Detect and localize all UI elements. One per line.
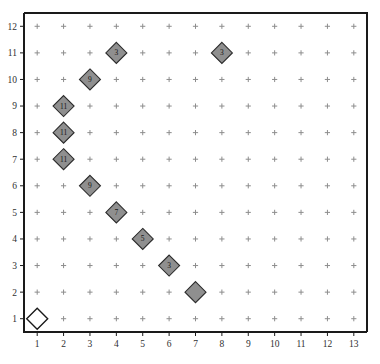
x-axis-tick-label: 2 bbox=[61, 339, 66, 349]
y-axis-tick-label: 6 bbox=[12, 181, 17, 191]
y-axis-tick-label: 4 bbox=[12, 234, 17, 244]
y-axis-tick-label: 11 bbox=[8, 48, 17, 58]
y-axis-tick-label: 12 bbox=[8, 22, 18, 32]
y-axis-tick-label: 8 bbox=[12, 128, 17, 138]
y-axis-tick-label: 1 bbox=[12, 314, 17, 324]
marker-value-label: 3 bbox=[114, 48, 118, 57]
marker-value-label: 7 bbox=[114, 208, 118, 217]
x-axis-tick-label: 11 bbox=[296, 339, 305, 349]
x-axis-tick-label: 5 bbox=[140, 339, 145, 349]
marker-value-label: 5 bbox=[141, 234, 145, 243]
marker-value-label: 3 bbox=[167, 261, 171, 270]
y-axis-tick-label: 5 bbox=[12, 208, 17, 218]
x-axis-tick-label: 10 bbox=[270, 339, 280, 349]
x-axis-tick-label: 4 bbox=[114, 339, 119, 349]
x-axis-tick-label: 12 bbox=[323, 339, 333, 349]
marker-value-label: 3 bbox=[220, 48, 224, 57]
plot-canvas: 12345678910111213 123456789101112 111111… bbox=[0, 0, 380, 364]
y-axis-tick-label: 10 bbox=[8, 75, 18, 85]
x-axis-tick-label: 13 bbox=[349, 339, 359, 349]
marker-value-label: 11 bbox=[60, 155, 67, 164]
marker-value-label: 11 bbox=[60, 102, 67, 111]
figure-background bbox=[0, 0, 380, 364]
x-axis-tick-label: 7 bbox=[193, 339, 198, 349]
y-axis-tick-label: 7 bbox=[12, 155, 17, 165]
marker-value-label: 9 bbox=[88, 181, 92, 190]
x-axis-tick-label: 3 bbox=[88, 339, 93, 349]
marker-value-label: 11 bbox=[60, 128, 67, 137]
marker-value-label: 9 bbox=[88, 75, 92, 84]
x-axis-tick-label: 9 bbox=[246, 339, 251, 349]
x-axis-tick-label: 1 bbox=[35, 339, 40, 349]
y-axis-tick-label: 3 bbox=[12, 261, 17, 271]
scatter-plot-figure: 12345678910111213 123456789101112 111111… bbox=[0, 0, 380, 364]
x-axis-tick-label: 8 bbox=[220, 339, 225, 349]
y-axis-tick-label: 2 bbox=[12, 288, 17, 298]
y-axis-tick-label: 9 bbox=[12, 101, 17, 111]
x-axis-tick-label: 6 bbox=[167, 339, 172, 349]
